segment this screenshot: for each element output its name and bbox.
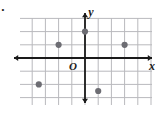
data-point [36,81,42,87]
list-bullet-mark: · [1,2,5,17]
coordinate-plane-figure: y x O · [0,0,163,113]
x-axis-label: x [148,59,155,73]
y-axis-label: y [86,5,94,19]
data-point [82,29,88,35]
data-point [56,42,62,48]
origin-label: O [69,60,77,72]
data-point [122,42,128,48]
data-point [95,88,101,94]
figure-background [0,0,163,113]
coordinate-plane-svg: y x O · [0,0,163,113]
